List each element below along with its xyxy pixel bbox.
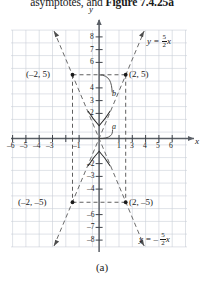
- x-tick-label-1: 1: [117, 142, 121, 150]
- y-tick-label-4: 4: [90, 84, 94, 92]
- y-tick-label--2: –2: [87, 160, 95, 168]
- point-label-lower-right: (2, –5): [129, 197, 153, 207]
- y-tick-label-2: 2: [90, 109, 94, 117]
- intro-sentence-suffix: a: [168, 0, 174, 8]
- asymptote-negative-equation: y = – 5 2 x: [139, 232, 170, 248]
- y-tick-label-6: 6: [90, 58, 94, 66]
- x-tick-label--6: –6: [7, 142, 15, 150]
- x-tick-label-3: 3: [130, 142, 134, 150]
- coordinate-plot: [0, 16, 204, 264]
- point-dot-upper-right: [124, 73, 128, 77]
- y-tick-label--3: –3: [87, 172, 95, 180]
- y-tick-label-3: 3: [90, 97, 94, 105]
- x-axis-arrowhead: [188, 136, 194, 141]
- y-tick-label--7: –7: [87, 223, 95, 231]
- point-dot-lower-left: [71, 200, 75, 204]
- asymptote-negative-equation-lhs: y = –: [139, 234, 158, 244]
- point-label-lower-left: (–2, –5): [18, 197, 47, 207]
- asymptote-positive-fraction: 5 2: [162, 34, 168, 50]
- asymptote-positive-equation-lhs: y =: [147, 36, 159, 46]
- x-tick-label--1: –1: [73, 142, 81, 150]
- x-tick-label-4: 4: [143, 142, 147, 150]
- x-tick-label-6: 6: [169, 142, 173, 150]
- point-label-upper-right: (2, 5): [129, 69, 149, 79]
- y-tick-label-8: 8: [90, 33, 94, 41]
- asymptote-negative-variable: x: [166, 234, 170, 244]
- asymptote-positive-equation: y = 5 2 x: [147, 34, 171, 50]
- figure-hyperbola-with-asymptotes: y x –6 –5 –4 –3 –1 1 3 4 5 6 8 7 6 4 3 2…: [0, 16, 204, 264]
- axis-lines: [11, 20, 194, 252]
- asymptote-positive-variable: x: [167, 36, 171, 46]
- point-label-upper-left: (–2, 5): [26, 69, 50, 79]
- semi-axis-a-indicator: [99, 130, 112, 139]
- x-tick-label--5: –5: [20, 142, 28, 150]
- figure-caption: (a): [0, 261, 204, 273]
- x-tick-label--3: –3: [46, 142, 54, 150]
- intro-sentence-prefix: asymptotes, and: [30, 0, 105, 8]
- asymptote-negative-fraction: 5 2: [160, 232, 166, 248]
- intro-sentence-figure-reference: Figure 7.4.25: [106, 0, 169, 8]
- y-tick-label--8: –8: [87, 236, 95, 244]
- x-tick-label-5: 5: [156, 142, 160, 150]
- y-tick-label--6: –6: [87, 211, 95, 219]
- x-axis-label: x: [195, 136, 199, 146]
- semi-axis-a-label: a: [112, 122, 116, 131]
- asymptote-positive-denominator: 2: [162, 42, 168, 50]
- intro-sentence: asymptotes, and Figure 7.4.25a: [0, 0, 204, 10]
- y-axis-arrowhead: [97, 19, 102, 25]
- y-tick-label-7: 7: [90, 46, 94, 54]
- y-axis-label: y: [89, 4, 93, 14]
- semi-axis-b-label: b: [112, 89, 116, 98]
- point-dot-upper-left: [71, 73, 75, 77]
- y-tick-label--4: –4: [87, 185, 95, 193]
- x-tick-label--4: –4: [33, 142, 41, 150]
- point-dot-lower-right: [124, 200, 128, 204]
- asymptote-negative-denominator: 2: [160, 240, 166, 248]
